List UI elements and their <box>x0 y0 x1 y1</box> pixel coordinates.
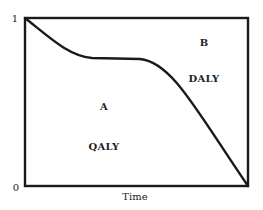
y-tick-bottom: 0 <box>13 183 19 193</box>
region-a-label: QALY <box>89 142 120 152</box>
x-axis-title: Time <box>122 192 147 202</box>
region-a-letter: A <box>100 102 108 112</box>
region-b-label: DALY <box>189 74 220 84</box>
region-b-letter: B <box>200 38 209 48</box>
qaly-daly-diagram: 1 0 A QALY B DALY Time <box>0 0 263 210</box>
y-tick-top: 1 <box>12 14 18 24</box>
health-curve <box>25 18 248 186</box>
diagram-canvas <box>0 0 263 210</box>
